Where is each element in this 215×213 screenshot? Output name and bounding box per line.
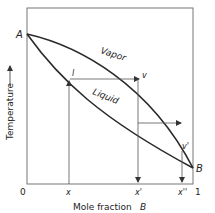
label-liquid: Liquid: [91, 87, 120, 107]
tick-x: x: [65, 188, 71, 197]
label-point-l: l: [72, 69, 75, 78]
x-axis-variable: B: [140, 202, 146, 212]
x-axis-title: Mole fraction: [73, 202, 132, 212]
label-point-v-prime: v': [182, 142, 189, 151]
label-b: B: [196, 163, 203, 174]
tick-origin: 0: [20, 187, 26, 197]
tick-x-double-prime: x'': [177, 188, 187, 197]
y-axis-title: Temperature: [5, 83, 15, 141]
label-a: A: [15, 29, 23, 40]
tick-one: 1: [195, 187, 201, 197]
label-vapor: Vapor: [99, 45, 128, 63]
tick-x-prime: x': [134, 188, 142, 197]
phase-diagram: A B Vapor Liquid l v v' 0 x x' x'' 1 Mol…: [0, 0, 215, 213]
label-point-v: v: [142, 71, 147, 80]
